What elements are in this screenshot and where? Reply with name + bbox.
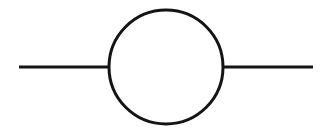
diagram-svg — [0, 0, 327, 133]
diagram-canvas: one-loop self-energy diagram — [0, 0, 327, 133]
